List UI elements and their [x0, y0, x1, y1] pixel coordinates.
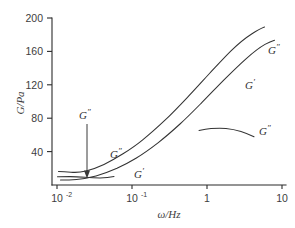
label-g-double-prime-left-inline-g: G	[110, 148, 118, 160]
label-g-double-prime-top-right: G ″	[268, 42, 280, 56]
label-g-double-prime-arrow-g: G	[79, 109, 87, 121]
x-tick-label-1e-1: 10 -1	[126, 191, 147, 204]
y-tick-label-200: 200	[25, 12, 43, 24]
label-g-double-prime-left-inline-prime: ″	[118, 146, 122, 156]
x-tick-label-1-base: 1	[204, 192, 210, 204]
label-g-double-prime-right-branch-g: G	[259, 125, 267, 137]
x-axis-title: ω/Hz	[157, 208, 181, 220]
label-g-double-prime-arrow-prime: ″	[87, 107, 91, 117]
x-tick-label-10-base: 10	[276, 192, 288, 204]
label-g-double-prime-top-right-g: G	[268, 44, 276, 56]
curve-g-prime	[61, 40, 275, 180]
y-tick-labels: 200 160 120 80 40	[25, 12, 43, 158]
x-tick-marks	[57, 185, 282, 189]
curve-g-double-prime-lowleft	[58, 177, 115, 178]
label-g-double-prime-right-branch-prime: ″	[267, 123, 271, 133]
label-g-prime-bottom-inline: G ′	[134, 166, 145, 180]
x-tick-label-1e-1-exp: -1	[141, 191, 147, 198]
x-tick-label-1e-2-base: 10	[51, 192, 63, 204]
label-g-double-prime-right-branch: G ″	[259, 123, 271, 137]
label-g-prime-right-prime: ′	[253, 77, 256, 87]
label-g-double-prime-arrow: G ″	[79, 107, 91, 121]
x-tick-label-10: 10	[276, 192, 288, 204]
label-g-prime-bottom-inline-g: G	[134, 168, 142, 180]
y-tick-marks	[47, 18, 52, 152]
curve-labels: G ″ G ″ G ′ G ″ G ′	[79, 42, 280, 180]
x-tick-labels: 10 -2 10 -1 1 10	[51, 191, 288, 204]
chart-plot-area: 200 160 120 80 40 10 -2 10 -1 1	[0, 0, 295, 228]
label-g-prime-right-g: G	[245, 79, 253, 91]
curve-g-double-prime-upper	[59, 27, 265, 172]
y-tick-label-160: 160	[25, 45, 43, 57]
curve-group	[58, 27, 275, 180]
x-tick-label-1e-2: 10 -2	[51, 191, 72, 204]
y-tick-label-80: 80	[31, 112, 43, 124]
label-g-prime-right: G ′	[245, 77, 256, 91]
x-tick-label-1: 1	[204, 192, 210, 204]
label-g-double-prime-top-right-prime: ″	[276, 42, 280, 52]
y-tick-label-40: 40	[31, 146, 43, 158]
chart-figure: 200 160 120 80 40 10 -2 10 -1 1	[0, 0, 295, 228]
x-tick-label-1e-2-exp: -2	[66, 191, 72, 198]
label-g-prime-bottom-inline-prime: ′	[142, 166, 145, 176]
y-axis-title: G/Pa	[14, 91, 26, 115]
y-tick-label-120: 120	[25, 79, 43, 91]
curve-g-double-prime-branch	[199, 128, 254, 137]
x-tick-label-1e-1-base: 10	[126, 192, 138, 204]
label-g-double-prime-left-inline: G ″	[110, 146, 122, 160]
